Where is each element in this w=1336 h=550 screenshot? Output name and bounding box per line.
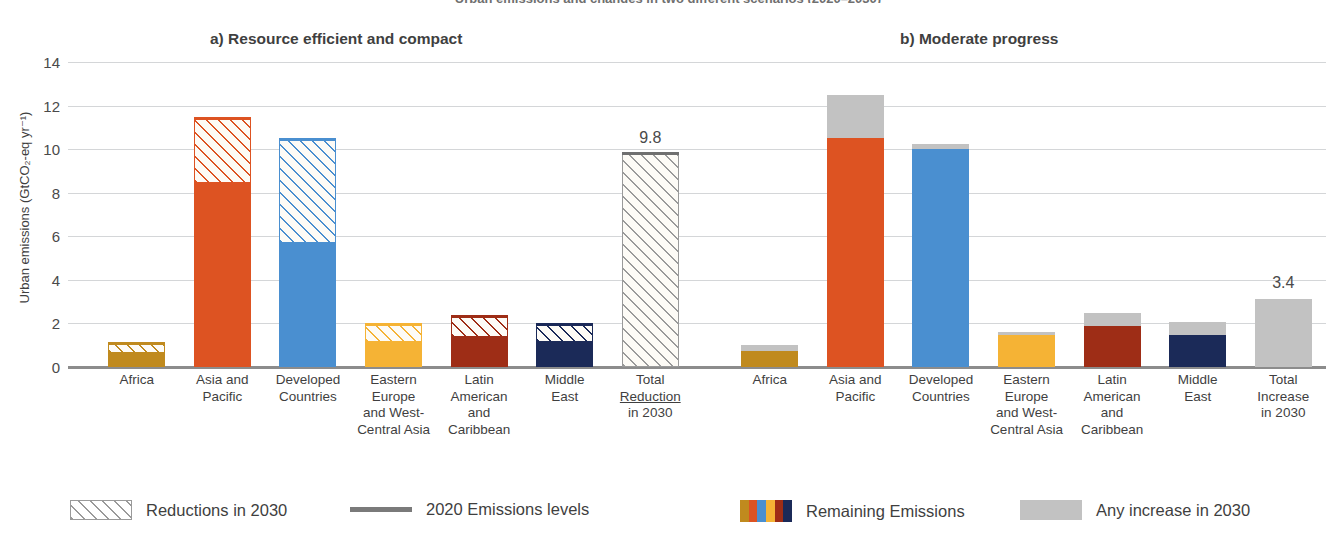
- x-tick-label: EasternEuropeand West-Central Asia: [978, 372, 1076, 438]
- bar-segment-any-increase-2030[interactable]: [912, 144, 969, 149]
- x-tick-label: Africa: [721, 372, 819, 389]
- emissions-level-2020-marker: [622, 152, 679, 155]
- plot-area: 9.83.4: [68, 62, 1326, 367]
- emissions-level-2020-marker: [451, 315, 508, 318]
- bar-group[interactable]: [451, 62, 508, 367]
- bar-segment-remaining-emissions[interactable]: [1084, 326, 1141, 367]
- multicolor-swatch: [740, 500, 792, 522]
- bar-segment-any-increase-2030[interactable]: [741, 345, 798, 350]
- legend-color-stripe: [783, 500, 792, 522]
- bar-segment-reductions-2030[interactable]: [365, 325, 422, 342]
- bar-group[interactable]: [536, 62, 593, 367]
- x-tick-label: Africa: [88, 372, 186, 389]
- legend-label: Reductions in 2030: [146, 501, 287, 520]
- bar-segment-remaining-emissions[interactable]: [365, 342, 422, 367]
- bar-segment-reductions-2030[interactable]: [451, 317, 508, 337]
- bar-group[interactable]: [1084, 62, 1141, 367]
- bar-value-label: 9.8: [598, 129, 703, 147]
- legend-item[interactable]: Any increase in 2030: [1020, 500, 1250, 520]
- y-axis-ticks: 02468101214: [18, 0, 60, 550]
- y-tick-label: 8: [18, 184, 60, 201]
- figure-suptitle: Urban emissions and changes in two diffe…: [0, 0, 1336, 3]
- line-swatch: [350, 507, 412, 512]
- emissions-level-2020-marker: [365, 323, 422, 326]
- bar-segment-remaining-emissions[interactable]: [279, 243, 336, 367]
- bar-segment-any-increase-2030[interactable]: [827, 95, 884, 139]
- bar-segment-remaining-emissions[interactable]: [827, 138, 884, 367]
- bar-segment-any-increase-2030[interactable]: [998, 332, 1055, 335]
- bar-group[interactable]: [365, 62, 422, 367]
- bar-group[interactable]: 3.4: [1255, 62, 1312, 367]
- x-tick-label: MiddleEast: [516, 372, 614, 405]
- legend-color-stripe: [775, 500, 784, 522]
- gray-swatch: [1020, 500, 1082, 520]
- bar-group[interactable]: [741, 62, 798, 367]
- legend-color-stripe: [766, 500, 775, 522]
- x-tick-label: LatinAmericanandCaribbean: [430, 372, 528, 438]
- bar-group[interactable]: [279, 62, 336, 367]
- bar-value-label: 3.4: [1231, 274, 1336, 292]
- bar-segment-reductions-2030[interactable]: [194, 119, 251, 183]
- y-tick-label: 12: [18, 97, 60, 114]
- bar-segment-remaining-emissions[interactable]: [108, 353, 165, 367]
- bar-segment-remaining-emissions[interactable]: [1169, 335, 1226, 367]
- bar-segment-reductions-2030[interactable]: [108, 344, 165, 353]
- legend-item[interactable]: 2020 Emissions levels: [350, 500, 589, 519]
- y-tick-label: 6: [18, 228, 60, 245]
- legend-label: Remaining Emissions: [806, 502, 965, 521]
- bar-segment-remaining-emissions[interactable]: [451, 337, 508, 368]
- bar-segment-remaining-emissions[interactable]: [912, 149, 969, 367]
- legend-color-stripe: [749, 500, 758, 522]
- x-tick-label: Asia andPacific: [174, 372, 272, 405]
- emissions-level-2020-marker: [279, 138, 336, 141]
- x-tick-label: TotalReductionin 2030: [601, 372, 699, 422]
- figure-root: Urban emissions and changes in two diffe…: [0, 0, 1336, 550]
- bar-segment-any-increase-2030[interactable]: [1084, 313, 1141, 326]
- bar-segment-reductions-2030[interactable]: [622, 154, 679, 368]
- panel-b-title: b) Moderate progress: [900, 30, 1058, 48]
- bar-group[interactable]: [1169, 62, 1226, 367]
- bar-segment-any-increase-2030[interactable]: [1255, 299, 1312, 367]
- x-tick-label: Asia andPacific: [807, 372, 905, 405]
- bar-group[interactable]: [108, 62, 165, 367]
- legend-item[interactable]: Reductions in 2030: [70, 500, 287, 520]
- x-tick-label: MiddleEast: [1149, 372, 1247, 405]
- legend-color-stripe: [757, 500, 766, 522]
- legend-label: Any increase in 2030: [1096, 501, 1250, 520]
- legend-label: 2020 Emissions levels: [426, 500, 589, 519]
- panel-a-title: a) Resource efficient and compact: [210, 30, 462, 48]
- bar-group[interactable]: 9.8: [622, 62, 679, 367]
- bar-segment-remaining-emissions[interactable]: [741, 351, 798, 367]
- emissions-level-2020-marker: [108, 342, 165, 345]
- chart-legend: Reductions in 20302020 Emissions levelsR…: [0, 492, 1336, 550]
- y-tick-label: 4: [18, 271, 60, 288]
- x-tick-label: DevelopedCountries: [259, 372, 357, 405]
- emissions-level-2020-marker: [194, 117, 251, 120]
- x-tick-label: DevelopedCountries: [892, 372, 990, 405]
- hatched-swatch: [70, 500, 132, 520]
- y-tick-label: 2: [18, 315, 60, 332]
- y-tick-label: 10: [18, 141, 60, 158]
- legend-item[interactable]: Remaining Emissions: [740, 500, 965, 522]
- x-tick-label: TotalIncreasein 2030: [1234, 372, 1332, 422]
- legend-color-stripe: [740, 500, 749, 522]
- x-tick-label: LatinAmericanandCaribbean: [1063, 372, 1161, 438]
- bar-group[interactable]: [912, 62, 969, 367]
- bar-group[interactable]: [194, 62, 251, 367]
- y-tick-label: 0: [18, 359, 60, 376]
- bar-segment-remaining-emissions[interactable]: [536, 342, 593, 367]
- emissions-level-2020-marker: [536, 323, 593, 326]
- x-tick-label: EasternEuropeand West-Central Asia: [345, 372, 443, 438]
- bar-segment-reductions-2030[interactable]: [279, 140, 336, 242]
- bar-segment-remaining-emissions[interactable]: [998, 335, 1055, 367]
- bar-segment-any-increase-2030[interactable]: [1169, 322, 1226, 335]
- bar-segment-remaining-emissions[interactable]: [194, 183, 251, 367]
- y-tick-label: 14: [18, 54, 60, 71]
- bar-segment-reductions-2030[interactable]: [536, 325, 593, 342]
- bar-group[interactable]: [827, 62, 884, 367]
- bar-group[interactable]: [998, 62, 1055, 367]
